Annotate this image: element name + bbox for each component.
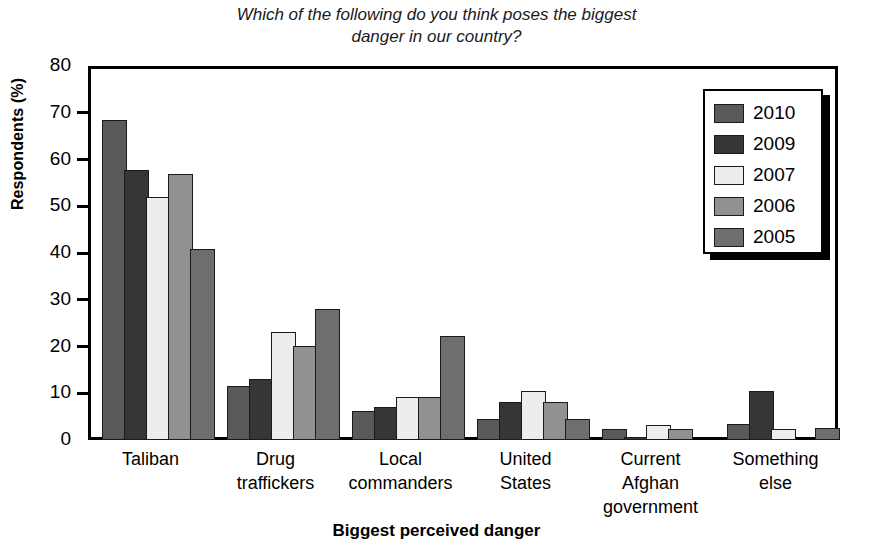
y-axis-tick-label: 60 bbox=[50, 148, 71, 170]
x-axis-tick-label: Something else bbox=[699, 447, 852, 495]
bar-group bbox=[338, 66, 463, 440]
legend-swatch bbox=[714, 104, 744, 123]
legend-item[interactable]: 2010 bbox=[714, 98, 821, 128]
legend-item[interactable]: 2007 bbox=[714, 160, 821, 190]
legend-item[interactable]: 2009 bbox=[714, 129, 821, 159]
y-axis-tick-label: 50 bbox=[50, 194, 71, 216]
legend-swatch bbox=[714, 228, 744, 247]
y-axis-tick-label: 80 bbox=[50, 54, 71, 76]
chart-title: Which of the following do you think pose… bbox=[0, 4, 873, 48]
y-axis-tick-label: 10 bbox=[50, 381, 71, 403]
y-axis-title: Respondents (%) bbox=[9, 14, 27, 274]
bar-group bbox=[463, 66, 588, 440]
legend-swatch bbox=[714, 166, 744, 185]
bar-group bbox=[588, 66, 713, 440]
legend-label: 2010 bbox=[753, 103, 795, 123]
y-axis-tick-mark bbox=[77, 298, 88, 301]
legend-label: 2007 bbox=[753, 165, 795, 185]
bar-group bbox=[88, 66, 213, 440]
legend-label: 2006 bbox=[753, 196, 795, 216]
x-axis-title: Biggest perceived danger bbox=[0, 521, 873, 541]
y-axis-tick-mark bbox=[77, 252, 88, 255]
y-axis-tick-mark bbox=[77, 111, 88, 114]
y-axis-tick-mark bbox=[77, 158, 88, 161]
legend-swatch bbox=[714, 135, 744, 154]
bar bbox=[668, 429, 693, 440]
bar bbox=[315, 309, 340, 440]
y-axis-tick-mark bbox=[77, 205, 88, 208]
bar bbox=[190, 249, 215, 440]
bar-group bbox=[213, 66, 338, 440]
bar bbox=[440, 336, 465, 440]
y-axis-tick-label: 30 bbox=[50, 288, 71, 310]
chart-legend: 20102009200720062005 bbox=[703, 89, 823, 254]
y-axis-tick-label: 40 bbox=[50, 241, 71, 263]
y-axis-tick-mark bbox=[77, 345, 88, 348]
legend-item[interactable]: 2005 bbox=[714, 222, 821, 252]
y-axis-tick-label: 0 bbox=[60, 428, 71, 450]
y-axis-tick-mark bbox=[77, 439, 88, 442]
legend-item[interactable]: 2006 bbox=[714, 191, 821, 221]
y-axis-tick-mark bbox=[77, 392, 88, 395]
y-axis-tick-mark bbox=[77, 65, 88, 68]
legend-label: 2005 bbox=[753, 227, 795, 247]
bar bbox=[815, 428, 840, 440]
y-axis-tick-label: 20 bbox=[50, 335, 71, 357]
y-axis-tick-label: 70 bbox=[50, 101, 71, 123]
legend-swatch bbox=[714, 197, 744, 216]
bar bbox=[771, 429, 796, 440]
legend-label: 2009 bbox=[753, 134, 795, 154]
x-axis-tick-labels: TalibanDrug traffickersLocal commandersU… bbox=[88, 447, 838, 517]
bar bbox=[565, 419, 590, 440]
